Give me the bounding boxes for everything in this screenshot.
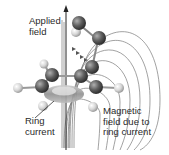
ring-current-icon <box>44 85 84 103</box>
carbon-atom-icon <box>89 80 103 94</box>
hydrogen-atom-icon <box>114 83 124 93</box>
carbon-atom-icon <box>92 31 106 45</box>
induced-field-label: Magnetic field due to ring current <box>103 106 151 138</box>
hydrogen-atom-icon <box>13 83 23 93</box>
hydrogen-atom-icon <box>38 101 48 111</box>
carbon-atom-icon <box>35 79 49 93</box>
hydrogen-atom-icon <box>40 60 49 69</box>
field-direction-arrows <box>72 47 88 62</box>
carbon-atom-icon <box>45 68 59 82</box>
ring-current-label: Ring current <box>25 116 55 137</box>
carbon-atom-icon <box>72 16 86 30</box>
carbon-atom-icon <box>85 60 99 74</box>
hydrogen-atom-icon <box>88 102 98 112</box>
substituent-chain <box>71 16 106 68</box>
carbon-atom-icon <box>74 69 88 83</box>
applied-field-label: Applied field <box>29 16 61 37</box>
